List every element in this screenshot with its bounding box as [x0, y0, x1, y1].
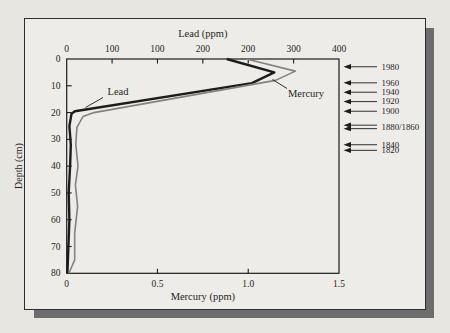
depth-axis-title: Depth (cm): [13, 143, 25, 189]
depth-axis-tick-label: 60: [51, 215, 61, 225]
year-arrow-head: [344, 142, 352, 147]
depth-axis-tick-label: 20: [51, 108, 61, 118]
mercury-annotation-leader: [273, 80, 288, 89]
bottom-axis-tick-label: 0.5: [152, 279, 164, 289]
depth-axis-tick-label: 80: [51, 268, 61, 278]
depth-axis-tick-label: 0: [56, 54, 61, 64]
year-arrow-head: [344, 64, 352, 69]
year-arrow-head: [344, 148, 352, 153]
year-arrow-head: [344, 126, 352, 131]
top-axis-tick-label: 200: [196, 44, 211, 54]
bottom-axis-tick-label: 0: [64, 279, 69, 289]
year-arrow-head: [344, 109, 352, 114]
sediment-core-chart: 0100100200200300400Lead (ppm)00.51.01.5M…: [0, 0, 450, 333]
year-label: 1980: [382, 62, 400, 72]
depth-axis-tick-label: 50: [51, 188, 61, 198]
bottom-axis-title: Mercury (ppm): [171, 291, 236, 303]
top-axis-tick-label: 200: [241, 44, 256, 54]
top-axis-title: Lead (ppm): [178, 28, 228, 40]
year-arrow-head: [344, 80, 352, 85]
depth-axis-tick-label: 30: [51, 134, 61, 144]
top-axis-tick-label: 100: [150, 44, 165, 54]
year-label: 1920: [382, 96, 400, 106]
depth-axis-tick-label: 10: [51, 81, 61, 91]
top-axis-tick-label: 100: [105, 44, 120, 54]
depth-axis-tick-label: 40: [51, 161, 61, 171]
lead-annotation-label: Lead: [108, 86, 130, 97]
year-label: 1900: [382, 106, 400, 116]
top-axis-tick-label: 300: [286, 44, 301, 54]
lead-curve: [67, 59, 274, 273]
top-axis-tick-label: 400: [332, 44, 347, 54]
year-label: 1880/1860: [382, 122, 420, 132]
depth-axis-tick-label: 70: [51, 242, 61, 252]
year-label: 1820: [382, 145, 400, 155]
mercury-curve: [69, 59, 296, 273]
bottom-axis-tick-label: 1.5: [333, 279, 345, 289]
bottom-axis-tick-label: 1.0: [242, 279, 254, 289]
mercury-annotation-label: Mercury: [288, 88, 325, 99]
year-arrow-head: [344, 90, 352, 95]
top-axis-tick-label: 0: [64, 44, 69, 54]
year-arrow-head: [344, 99, 352, 104]
